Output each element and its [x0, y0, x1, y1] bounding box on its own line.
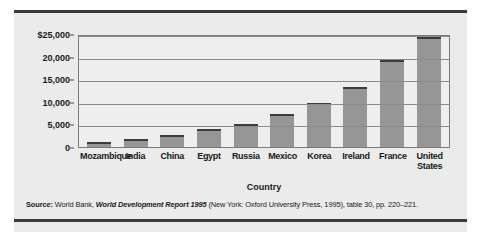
- gridline: [79, 36, 449, 37]
- figure-top-rule: [14, 10, 467, 13]
- x-axis-tick-label: Egypt: [191, 151, 228, 161]
- y-axis-tick-label: 15,000: [42, 75, 70, 85]
- bars-container: [79, 36, 449, 147]
- y-axis-tick-label: $25,000: [37, 30, 70, 40]
- x-axis-tick-label: Mexico: [264, 151, 301, 161]
- x-axis-tick-label: India: [117, 151, 154, 161]
- y-axis-tick-mark: [70, 80, 74, 81]
- source-report-title: World Development Report 1995: [96, 200, 207, 209]
- x-axis-tick-labels: MozambiqueIndiaChinaEgyptRussiaMexicoKor…: [78, 151, 450, 171]
- y-axis-tick-mark: [70, 102, 74, 103]
- gridline: [79, 104, 449, 105]
- x-axis-tick-label: Korea: [301, 151, 338, 161]
- y-axis-ticks: 05,00010,00015,00020,000$25,000: [28, 30, 74, 153]
- plot-area: [78, 35, 450, 148]
- x-axis-tick-label: Russia: [227, 151, 264, 161]
- source-details: (New York: Oxford University Press, 1995…: [207, 200, 419, 209]
- gridline: [79, 126, 449, 127]
- source-publisher: World Bank,: [53, 200, 96, 209]
- y-axis-tick-mark: [70, 125, 74, 126]
- bar: [417, 37, 441, 147]
- source-note: Source: World Bank, World Development Re…: [26, 200, 456, 210]
- x-axis-tick-label: China: [154, 151, 191, 161]
- bar: [307, 103, 331, 147]
- y-axis-tick-label: 10,000: [42, 98, 70, 108]
- x-axis-tick-label: United States: [411, 151, 448, 171]
- gridline: [79, 81, 449, 82]
- source-label: Source:: [26, 200, 53, 209]
- bar: [270, 114, 294, 147]
- gridline: [79, 59, 449, 60]
- bar: [87, 142, 111, 147]
- figure-bar-chart-gdp-per-capita: 1993 International dollars 05,00010,0001…: [0, 0, 481, 244]
- y-axis-tick-mark: [70, 35, 74, 36]
- bar: [124, 139, 148, 147]
- bar: [343, 87, 367, 147]
- y-axis-tick-label: 5,000: [47, 120, 70, 130]
- x-axis-title: Country: [78, 182, 450, 192]
- bar: [197, 129, 221, 147]
- y-axis-tick-label: 20,000: [42, 53, 70, 63]
- y-axis-tick-mark: [70, 57, 74, 58]
- x-axis-tick-label: Mozambique: [80, 151, 117, 161]
- x-axis-tick-label: Ireland: [338, 151, 375, 161]
- figure-bottom-rule: [14, 219, 467, 222]
- y-axis-tick-mark: [70, 148, 74, 149]
- bar: [160, 135, 184, 147]
- x-axis-tick-label: France: [374, 151, 411, 161]
